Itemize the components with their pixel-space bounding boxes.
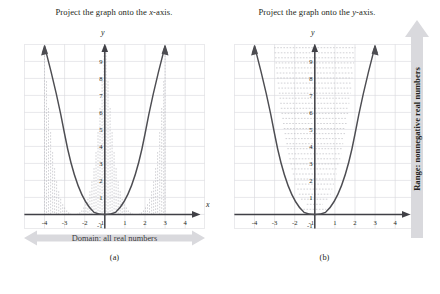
svg-text:-2: -2 xyxy=(82,219,88,226)
svg-text:4: 4 xyxy=(184,219,188,226)
svg-text:1: 1 xyxy=(99,194,102,201)
svg-text:3: 3 xyxy=(163,219,167,226)
svg-text:7: 7 xyxy=(99,92,103,99)
panel-b: Project the graph onto the y-axis. xyxy=(222,0,412,294)
svg-text:-1: -1 xyxy=(307,222,313,229)
svg-text:1: 1 xyxy=(123,219,126,226)
panel-a-title: Project the graph onto the x-axis. xyxy=(0,7,228,17)
svg-text:4: 4 xyxy=(394,219,398,226)
caption-a: (a) xyxy=(24,253,205,262)
svg-text:2: 2 xyxy=(353,219,356,226)
svg-text:-3: -3 xyxy=(272,219,278,226)
svg-text:2: 2 xyxy=(99,177,102,184)
svg-text:8: 8 xyxy=(99,75,103,82)
panel-b-title: Project the graph onto the y-axis. xyxy=(222,7,412,17)
svg-text:9: 9 xyxy=(309,58,313,65)
x-axis-tick-labels-a: -4 -3 -2 -1 1 2 3 4 xyxy=(42,219,188,226)
domain-banner: Domain: all real numbers xyxy=(24,228,205,248)
range-banner-label-wrap: Range: nonnegative real numbers xyxy=(404,20,430,238)
panel-a: Project the graph onto the x-axis. xyxy=(0,0,228,294)
svg-text:-2: -2 xyxy=(292,219,298,226)
range-banner-label: Range: nonnegative real numbers xyxy=(412,67,422,191)
svg-text:2: 2 xyxy=(309,177,312,184)
graph-b: -4 -3 -2 -1 1 2 3 4 9 8 7 6 5 4 3 2 1 -1 xyxy=(234,44,415,229)
x-axis-label-a: x xyxy=(206,200,210,209)
svg-text:-3: -3 xyxy=(62,219,68,226)
svg-text:9: 9 xyxy=(99,58,103,65)
svg-text:-4: -4 xyxy=(252,219,258,226)
caption-b: (b) xyxy=(234,253,415,262)
svg-text:7: 7 xyxy=(309,92,313,99)
graph-a: -4 -3 -2 -1 1 2 3 4 9 8 7 6 5 4 3 2 1 -1 xyxy=(24,44,205,229)
y-axis-label-b: y xyxy=(311,28,315,37)
svg-text:1: 1 xyxy=(333,219,336,226)
svg-text:2: 2 xyxy=(143,219,146,226)
y-axis-label-a: y xyxy=(101,28,105,37)
domain-banner-label: Domain: all real numbers xyxy=(24,228,205,248)
svg-text:-4: -4 xyxy=(42,219,48,226)
x-axis-tick-labels-b: -4 -3 -2 -1 1 2 3 4 xyxy=(252,219,398,226)
svg-text:3: 3 xyxy=(373,219,377,226)
svg-text:1: 1 xyxy=(309,194,312,201)
